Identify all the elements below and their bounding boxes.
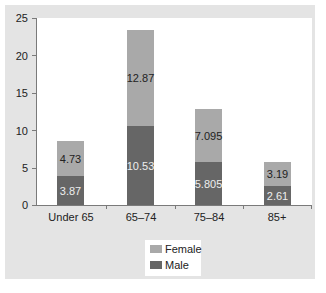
bar-segment-female: 12.87: [127, 30, 154, 126]
legend-item-female: Female: [150, 243, 202, 255]
y-tick: [32, 93, 36, 94]
y-tick: [32, 55, 36, 56]
x-tick-label: Under 65: [36, 211, 106, 223]
x-tick-label: 65–74: [106, 211, 176, 223]
x-tick: [243, 205, 244, 209]
y-tick: [32, 168, 36, 169]
x-tick-label: 85+: [242, 211, 312, 223]
x-tick: [311, 205, 312, 209]
legend-label: Female: [165, 243, 202, 255]
x-tick: [106, 205, 107, 209]
bar-segment-male: 3.87: [57, 176, 84, 205]
bar-85-plus: 3.19 2.61: [264, 162, 291, 205]
bar-segment-male: 5.805: [195, 162, 222, 205]
y-tick-label: 5: [4, 162, 28, 174]
y-tick-label: 10: [4, 125, 28, 137]
x-tick-label: 75–84: [174, 211, 244, 223]
bar-under-65: 4.73 3.87: [57, 141, 84, 205]
y-tick-label: 0: [4, 199, 28, 211]
y-tick: [32, 205, 36, 206]
legend-label: Male: [165, 259, 189, 271]
y-tick-label: 25: [4, 12, 28, 24]
x-axis: [36, 205, 312, 206]
bar-segment-female: 3.19: [264, 162, 291, 186]
bar-75-84: 7.095 5.805: [195, 109, 222, 205]
bar-segment-male: 10.53: [127, 126, 154, 205]
x-tick: [175, 205, 176, 209]
bar-segment-female: 4.73: [57, 141, 84, 176]
legend-item-male: Male: [150, 259, 189, 271]
y-axis: [36, 18, 37, 206]
legend: Female Male: [145, 240, 201, 276]
bar-segment-female: 7.095: [195, 109, 222, 162]
male-swatch-icon: [150, 261, 162, 269]
bar-segment-male: 2.61: [264, 186, 291, 205]
bar-65-74: 12.87 10.53: [127, 30, 154, 205]
y-tick: [32, 18, 36, 19]
y-tick-label: 20: [4, 50, 28, 62]
female-swatch-icon: [150, 245, 162, 253]
y-tick: [32, 130, 36, 131]
y-tick-label: 15: [4, 87, 28, 99]
